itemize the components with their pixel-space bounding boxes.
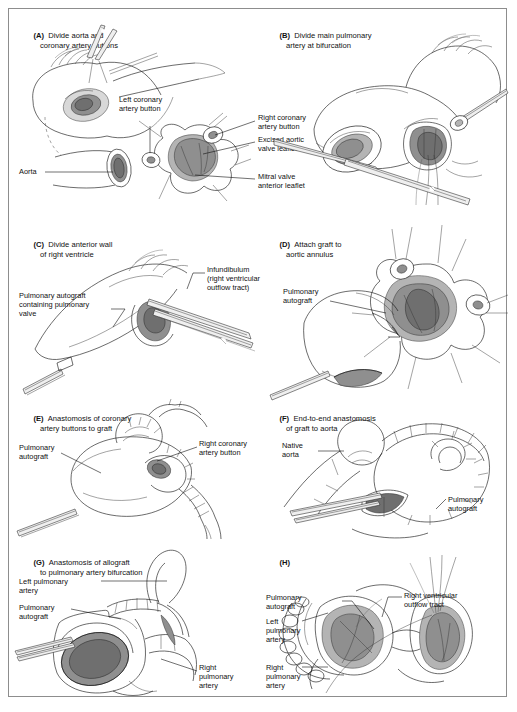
label-pulmonary-autograft-e: Pulmonaryautograft [19, 443, 54, 461]
label-pulmonary-autograft-d: Pulmonaryautograft [283, 287, 318, 305]
panel-g: (G) Anastomosis of allograftto pulmonary… [9, 541, 259, 698]
label-left-pulmonary-artery-g: Left pulmonaryartery [19, 577, 68, 595]
panel-a: (A) Divide aorta andcoronary artery butt… [9, 9, 259, 215]
label-right-pulmonary-artery-g: Rightpulmonaryartery [199, 663, 234, 690]
panel-b-illustration [256, 9, 508, 215]
label-aorta: Aorta [19, 167, 37, 176]
panel-c: (C) Divide anterior wallof right ventric… [9, 217, 259, 395]
label-pulmonary-autograft-h: Pulmonaryautograft [266, 593, 301, 611]
panel-d-illustration [256, 217, 508, 395]
panel-d: (D) Attach graft toaortic annulus [256, 217, 508, 395]
figure-frame-border: (A) Divide aorta andcoronary artery butt… [8, 8, 507, 697]
panel-e: (E) Anastomosis of coronaryartery button… [9, 397, 259, 539]
label-right-ventricular-outflow-tract-h: Right ventricularoutflow tract [404, 591, 457, 609]
leader-pulmonary-autograft-e [61, 453, 101, 473]
label-left-coronary-artery-button: Left coronaryartery button [119, 95, 162, 113]
label-right-pulmonary-artery-h: Rightpulmonaryartery [266, 663, 301, 690]
label-native-aorta-f: Nativeaorta [282, 441, 303, 459]
label-pulmonary-autograft-c: Pulmonary autograftcontaining pulmonaryv… [19, 291, 89, 318]
label-left-pulmonary-artery-h: Leftpulmonaryartery [266, 617, 301, 644]
panel-f-illustration [256, 397, 508, 539]
panel-e-illustration [9, 397, 259, 539]
leader-right-ventricular-outflow-tract-h [382, 597, 402, 617]
label-right-coronary-artery-button-e: Right coronaryartery button [199, 439, 247, 457]
label-pulmonary-autograft-f: Pulmonaryautograft [448, 495, 483, 513]
leader-pulmonary-autograft-d [330, 301, 386, 313]
label-infundibulum-c: Infundibulum(right ventricularoutflow tr… [207, 265, 260, 292]
panel-b: (B) Divide main pulmonaryartery at bifur… [256, 9, 508, 215]
panel-h: (H) [256, 541, 508, 698]
panel-f: (F) End-to-end anastomosisof graft to ao… [256, 397, 508, 539]
label-pulmonary-autograft-g: Pulmonaryautograft [19, 603, 54, 621]
surgical-figure-plate: (A) Divide aorta andcoronary artery butt… [0, 0, 517, 712]
leader-infundibulum-c [187, 273, 205, 289]
leader-right-coronary-button [215, 121, 255, 135]
leader-pulmonary-autograft-f [436, 499, 446, 509]
